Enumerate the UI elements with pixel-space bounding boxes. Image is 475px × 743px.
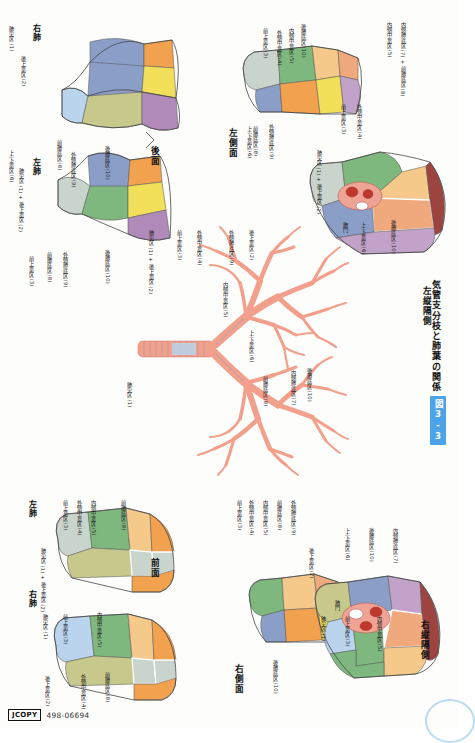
right-med-label-post-upper: 後上葉区 (2) [308,548,314,579]
tree-label-med-basal: 内側肺底区 (7) [290,370,296,406]
right-lateral-label-ant-upper: 前上葉区 (3) [236,500,242,531]
left-lateral-label-post-basal: 後肺底区 (10) [300,24,306,58]
posterior-view-name: 後面 [148,146,160,166]
anterior-view-name: 前面 [148,558,160,578]
anterior-label-med-middle-left: 内側中葉区 (5) [90,500,96,536]
anterior-lungs-illustration [46,500,226,710]
left-lateral-view-name: 左側面 [226,128,238,158]
left-lateral-label-ant-basal: 前肺底区 (8) [252,126,258,157]
tree-label-apical: 肺尖区 (1) [126,382,132,407]
posterior-right-lung-name: 右肺 [30,24,41,41]
right-med-label-ant-upper: 前上葉区 (3) [344,616,350,647]
posterior-label-ant-upper-left: 前上葉区 (3) [28,256,34,287]
left-med-label-med-ant-basal: 内側肺底区 (7) + 前肺底区 (8) [400,22,405,97]
tree-label-post-basal: 後肺底区 (10) [306,368,312,402]
anterior-label-ant-basal: 前肺底区 (8) [104,672,110,703]
anterior-left-lung [56,508,174,592]
posterior-label-apical: 肺尖区 (1) [8,26,14,51]
posterior-label-post-basal-left: 後肺底区 (10) [104,250,110,284]
anterior-label-ant-upper: 前上葉区 (3) [62,614,68,645]
tree-label-med-middle: 内側中葉区 (5) [222,282,228,318]
right-med-label-hilum: 肺門 [334,600,340,610]
left-med-label-lat-middle: 外側中葉区 (4) [356,104,362,140]
left-lateral-label-med-middle: 内側中葉区 (5) [288,28,294,64]
right-lateral-label-lat-middle: 外側中葉区 (4) [248,500,254,536]
right-med-label-sup-lower: 上-下葉区 (6) [344,528,350,561]
tree-label-ant-basal: 前肺底区 (8) [262,376,268,407]
right-mediastinal-view-name: 右縦隔側 [418,620,430,660]
anterior-label-post-upper: 後上葉区 (2) [44,676,50,707]
anterior-label-apical: 肺尖区 (1) [42,614,48,639]
anterior-label-lat-middle-left: 外側中葉区 (4) [76,500,82,536]
posterior-label-ant-basal-left: 前肺底区 (8) [46,252,52,283]
anterior-right-lung-name: 右肺 [26,590,37,607]
tree-label-apical-post: 肺尖区 (1) + 後上葉区 (2) [148,230,153,294]
right-med-label-apical: 肺尖区 (1) [320,616,326,641]
right-lateral-label-post-basal: 後肺底区 (10) [272,660,278,694]
left-med-label-apical-post: 肺尖区 (1) + 後上葉区 (2) [316,150,321,214]
figure-title: 気管支分枝と肺葉の関係 [430,280,443,392]
tree-label-ant-upper: 前上葉区 (3) [176,230,182,261]
posterior-lungs-illustration [28,22,238,252]
anterior-label-ant-basal-left: 前肺底区 (8) [120,500,126,531]
figure-caption: 図3-3 気管支分枝と肺葉の関係 [421,278,457,488]
left-med-label-sup-lower: 上-下葉区 (6) [360,222,366,255]
left-med-label-med-middle: 内側中葉区 (5) [386,22,392,58]
right-med-label-med-middle: 内側中葉区 (5) [376,616,382,652]
jcopy-badge: JCOPY [8,709,41,721]
tree-label-lat-basal: 外側肺底区 (9) [228,230,234,266]
posterior-label-post-basal: 後肺底区 (10) [104,146,110,180]
left-lateral-label-lat-basal: 外側肺底区 (9) [268,124,274,160]
bronchial-tree-svg [120,225,360,485]
posterior-left-lung-name: 左肺 [30,158,41,175]
right-lateral-label-med-middle: 内側中葉区 (5) [262,500,268,536]
figure-number-badge: 図3-3 [430,396,446,445]
left-lateral-label-ant-upper: 前上葉区 (3) [262,28,268,59]
left-med-label-ant-upper: 前上葉区 (3) [340,104,346,135]
anterior-label-lat-middle: 外側中葉区 (4) [80,674,86,710]
anterior-label-apical-post-left: 肺尖区 (1) + 後上葉区 (2) [40,548,45,612]
page-corner-mark [425,699,475,743]
isbn-number: 498-06694 [46,711,89,720]
right-lateral-label-lat-basal: 外側肺底区 (9) [290,500,296,536]
anterior-label-ant-upper-left: 前上葉区 (3) [62,500,68,531]
left-lateral-label-lat-middle: 外側中葉区 (4) [276,30,282,66]
posterior-label-lat-basal: 外側肺底区 (9) [70,152,76,188]
right-lateral-label-ant-basal: 前肺底区 (8) [276,500,282,531]
right-med-label-post-basal: 後肺底区 (10) [368,528,374,562]
posterior-label-lat-basal-left: 外側肺底区 (9) [62,252,68,288]
anterior-label-med-middle: 内側中葉区 (5) [96,612,102,648]
posterior-label-post-upper: 後上葉区 (2) [20,56,26,87]
anterior-right-lung [54,614,176,700]
posterior-right-lung [62,38,180,130]
right-lateral-view-name: 右側面 [232,664,244,694]
tree-label-post-upper: 後上葉区 (2) [248,230,254,261]
page-footer: JCOPY 498-06694 [8,709,89,721]
anterior-left-lung-name: 左肺 [26,500,37,517]
posterior-label-apical-post-left: 肺尖区 (1) + 後上葉区 (2) [18,168,23,232]
tree-label-lat-middle: 外側中葉区 (4) [196,230,202,266]
tree-label-sup-lower: 上-下葉区 (6) [248,330,254,363]
posterior-label-ant-basal: 前肺底区 (8) [56,140,62,171]
right-med-label-med-basal: 内側肺底区 (7) [392,528,398,564]
posterior-label-sup-lower-left: 上-下葉区 (6) [8,150,14,183]
lower-lobe-branches [198,357,348,475]
left-med-label-post-basal: 後肺底区 (10) [390,220,396,254]
